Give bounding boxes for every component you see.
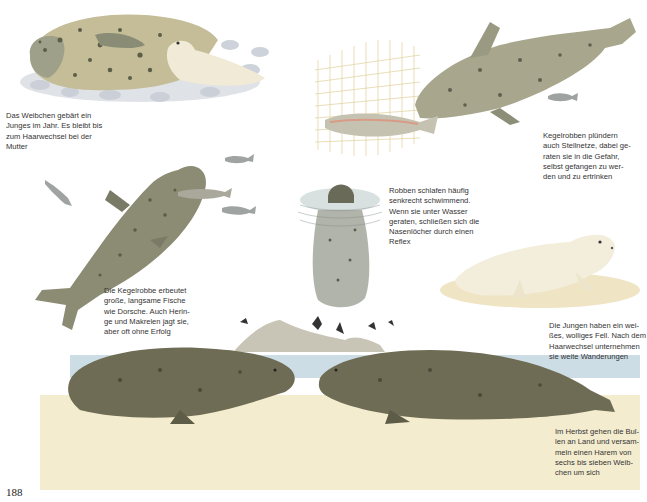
mother-pup-illustration	[20, 15, 269, 102]
caption-mother-pup: Das Weibchen gebärt ein Junges im Jahr. …	[6, 111, 102, 152]
sleeping-seal-illustration	[298, 185, 382, 308]
caption-sleeping: Robben schlafen häufig senkrecht schwimm…	[389, 186, 479, 248]
page-number: 188	[6, 486, 23, 498]
page-illustrations	[0, 0, 647, 502]
caption-hunting: Die Kegelrobbe erbeutet große, langsame …	[104, 286, 190, 337]
caption-bulls: Im Herbst gehen die Bul- len an Land und…	[555, 427, 639, 478]
caption-pup-fur: Die Jungen haben ein wei- ßes, wolliges …	[549, 321, 646, 362]
caption-net: Kegelrobben plündern auch Stellnetze, da…	[543, 131, 631, 182]
